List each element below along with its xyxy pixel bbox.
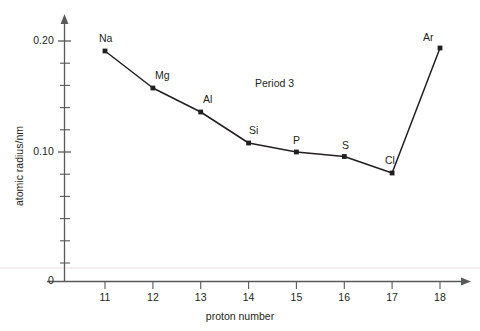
annotation-period-3: Period 3 xyxy=(255,77,294,89)
point-label-mg: Mg xyxy=(155,69,170,81)
x-tick-label-3: 14 xyxy=(234,291,264,303)
chart-plot-area xyxy=(0,0,480,331)
x-tick-label-1: 12 xyxy=(138,291,168,303)
point-label-p: P xyxy=(293,134,300,146)
y-axis-title-text: atomic radius/nm xyxy=(13,126,25,206)
y-tick-label-0: 0.20 xyxy=(10,34,54,46)
point-label-si: Si xyxy=(249,124,258,136)
point-label-al: Al xyxy=(203,93,212,105)
x-tick-label-4: 15 xyxy=(281,291,311,303)
x-tick-label-5: 16 xyxy=(329,291,359,303)
x-tick-label-6: 17 xyxy=(377,291,407,303)
point-label-cl: Cl xyxy=(385,154,395,166)
y-tick-label-2: 0 xyxy=(10,274,54,286)
x-ticks xyxy=(105,281,440,289)
point-label-ar: Ar xyxy=(423,31,434,43)
x-tick-label-7: 18 xyxy=(425,291,455,303)
x-axis-title: proton number xyxy=(0,310,480,322)
point-label-s: S xyxy=(342,139,349,151)
atomic-radius-chart: 0.20 0.10 0 11 12 13 14 15 16 17 18 Na M… xyxy=(0,0,480,331)
x-axis xyxy=(47,278,471,286)
y-axis-title: atomic radius/nm xyxy=(10,96,28,236)
point-label-na: Na xyxy=(99,32,112,44)
x-tick-label-2: 13 xyxy=(186,291,216,303)
x-tick-label-0: 11 xyxy=(90,291,120,303)
